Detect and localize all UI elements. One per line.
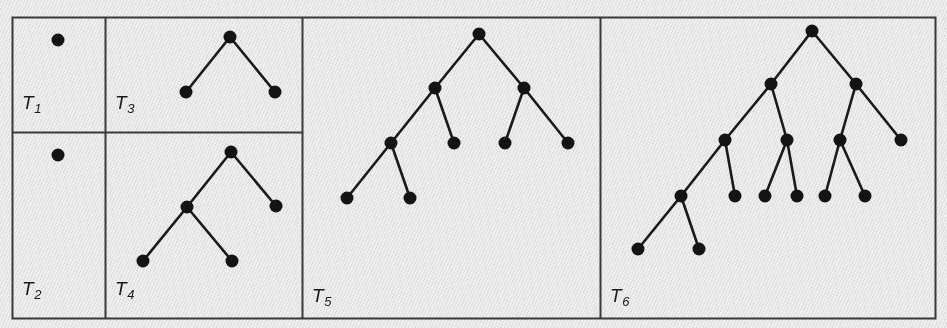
panel-label-t4-subscript: 4 xyxy=(127,287,134,302)
tree-node-t5-4 xyxy=(385,137,398,150)
tree-node-t5-2 xyxy=(429,82,442,95)
panel-label-t3-subscript: 3 xyxy=(127,101,134,116)
panel-label-t6-subscript: 6 xyxy=(622,294,629,309)
panel-label-t4: T4 xyxy=(115,278,134,300)
tree-node-t6-7 xyxy=(895,134,908,147)
tree-node-t6-10 xyxy=(759,190,772,203)
tree-node-t3-2 xyxy=(180,86,193,99)
panel-label-t5-letter: T xyxy=(312,285,324,306)
tree-node-t5-8 xyxy=(341,192,354,205)
tree-node-t6-9 xyxy=(729,190,742,203)
tree-node-t5-9 xyxy=(404,192,417,205)
tree-figure-svg xyxy=(0,0,947,328)
panel-label-t2-subscript: 2 xyxy=(34,287,41,302)
tree-node-t6-13 xyxy=(859,190,872,203)
tree-node-t6-8 xyxy=(675,190,688,203)
tree-node-t5-3 xyxy=(518,82,531,95)
tree-node-t6-4 xyxy=(719,134,732,147)
tree-node-t3-3 xyxy=(269,86,282,99)
panel-label-t5: T5 xyxy=(312,285,331,307)
frame-layer xyxy=(12,17,936,319)
tree-node-t4-5 xyxy=(226,255,239,268)
panel-label-t3: T3 xyxy=(115,92,134,114)
tree-node-t1-1 xyxy=(52,34,65,47)
tree-node-t6-11 xyxy=(791,190,804,203)
figure-root: T1 T2 T3 T4 T5 T6 xyxy=(0,0,947,328)
panel-label-t3-letter: T xyxy=(115,92,127,113)
tree-node-t5-5 xyxy=(448,137,461,150)
panel-background-t6 xyxy=(600,17,935,318)
tree-node-t4-3 xyxy=(270,200,283,213)
tree-node-t6-1 xyxy=(806,25,819,38)
tree-node-t5-6 xyxy=(499,137,512,150)
panel-label-t1: T1 xyxy=(22,92,41,114)
panel-background-t5 xyxy=(302,17,600,318)
tree-node-t6-12 xyxy=(819,190,832,203)
panel-label-t5-subscript: 5 xyxy=(324,294,331,309)
tree-node-t2-1 xyxy=(52,149,65,162)
panel-label-t6-letter: T xyxy=(610,285,622,306)
tree-node-t6-5 xyxy=(781,134,794,147)
panel-label-t2: T2 xyxy=(22,278,41,300)
tree-node-t4-2 xyxy=(181,201,194,214)
tree-node-t6-6 xyxy=(834,134,847,147)
tree-node-t6-14 xyxy=(632,243,645,256)
tree-node-t4-4 xyxy=(137,255,150,268)
tree-node-t5-7 xyxy=(562,137,575,150)
panel-label-t1-subscript: 1 xyxy=(34,101,41,116)
panel-label-t4-letter: T xyxy=(115,278,127,299)
panel-label-t6: T6 xyxy=(610,285,629,307)
tree-node-t3-1 xyxy=(224,31,237,44)
tree-node-t4-1 xyxy=(225,146,238,159)
tree-node-t5-1 xyxy=(473,28,486,41)
panel-label-t2-letter: T xyxy=(22,278,34,299)
tree-node-t6-3 xyxy=(850,78,863,91)
tree-node-t6-15 xyxy=(693,243,706,256)
panel-label-t1-letter: T xyxy=(22,92,34,113)
tree-node-t6-2 xyxy=(765,78,778,91)
